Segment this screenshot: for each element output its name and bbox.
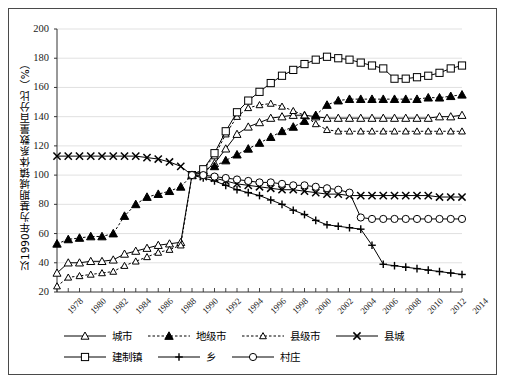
legend-label: 建制镇 [112,349,142,364]
legend-row: 建制镇乡村庄 [62,346,452,367]
x-axis-ticks [57,288,462,292]
legend-label: 地级市 [196,328,226,343]
legend-marker-triangle-filled-icon [146,329,192,343]
y-tick-label: 60 [23,229,49,239]
chart-legend: 城市地级市县级市县城建制镇乡村庄 [62,325,452,369]
y-tick-label: 200 [23,24,49,34]
legend-marker-x-icon [334,329,380,343]
legend-label: 县城 [384,328,404,343]
legend-item-村庄[interactable]: 村庄 [230,346,300,367]
legend-marker-circle-open-icon [230,350,276,364]
legend-marker-plus-icon [156,350,202,364]
legend-item-县城[interactable]: 县城 [334,325,404,346]
y-tick-label: 140 [23,112,49,122]
plot-area-border [57,29,462,292]
y-tick-label: 80 [23,199,49,209]
chart-figure: 以1990年为基期城镇体系数量百分比（%） 204060801001201401… [0,0,505,383]
legend-item-建制镇[interactable]: 建制镇 [62,346,142,367]
legend-label: 城市 [112,328,132,343]
y-tick-label: 180 [23,53,49,63]
legend-label: 县级市 [290,328,320,343]
legend-item-地级市[interactable]: 地级市 [146,325,226,346]
legend-label: 村庄 [280,349,300,364]
legend-marker-triangle-open-icon [62,329,108,343]
y-tick-label: 100 [23,170,49,180]
legend-label: 乡 [206,349,216,364]
legend-marker-square-open-icon [62,350,108,364]
y-tick-label: 120 [23,141,49,151]
data-series-group [53,53,466,289]
series-1 [53,91,466,248]
y-tick-label: 160 [23,82,49,92]
y-tick-label: 40 [23,258,49,268]
legend-item-乡[interactable]: 乡 [156,346,216,367]
series-6 [188,172,465,223]
legend-item-城市[interactable]: 城市 [62,325,132,346]
legend-item-县级市[interactable]: 县级市 [240,325,320,346]
legend-marker-triangle-open-sm-icon [240,329,286,343]
legend-row: 城市地级市县级市县城 [62,325,452,346]
y-tick-label: 20 [23,287,49,297]
